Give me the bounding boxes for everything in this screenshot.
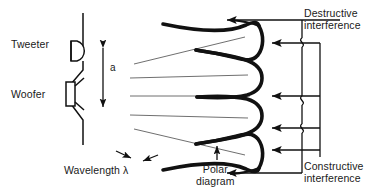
ray-mid-upper — [130, 75, 248, 78]
destructive-interference-label-line2: interference — [304, 19, 361, 31]
polar-diagram-curve — [163, 20, 263, 174]
destructive-interference-label: Destructive interference — [304, 7, 361, 31]
destructive-interference-label-line1: Destructive — [304, 7, 361, 19]
polar-diagram-label-line2: diagram — [196, 175, 235, 187]
wire-hop-marker — [301, 96, 304, 105]
figure-canvas: Tweeter Woofer a Wavelength λ Destructiv… — [0, 0, 379, 193]
tweeter-label: Tweeter — [11, 38, 49, 50]
constructive-interference-label-line1: Constructive — [304, 160, 364, 172]
constructive-interference-label-line2: interference — [304, 172, 364, 184]
ray-mid-lower — [130, 115, 248, 118]
spacing-dimension-label: a — [110, 62, 116, 74]
woofer-label: Woofer — [11, 88, 45, 100]
constructive-interference-label: Constructive interference — [304, 160, 364, 184]
polar-diagram-label: Polar diagram — [196, 163, 235, 187]
ray-upper — [134, 37, 245, 64]
tweeter-dome-icon — [71, 41, 84, 61]
polar-diagram-label-line1: Polar — [196, 163, 235, 175]
baffle-edge-bottom — [71, 104, 83, 145]
speaker-baffle — [71, 13, 83, 145]
wavelength-inward-arrows-icon — [116, 151, 158, 161]
woofer-cone-icon — [66, 78, 84, 110]
wavelength-label: Wavelength λ — [64, 164, 128, 176]
ray-lower — [134, 129, 245, 155]
